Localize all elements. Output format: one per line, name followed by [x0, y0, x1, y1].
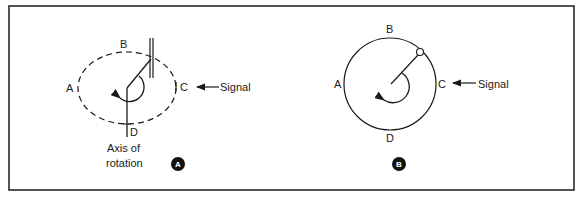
- rotation-arrow-icon: [120, 76, 144, 102]
- panel-b: B A C D Signal B: [334, 23, 509, 171]
- figure-canvas: B A C D Signal Axis of rotation A B A C …: [0, 0, 582, 198]
- panel-a: B A C D Signal Axis of rotation A: [66, 38, 251, 171]
- label-c: C: [438, 78, 446, 90]
- rotating-arm: [127, 59, 151, 88]
- label-b: B: [386, 23, 393, 35]
- label-d: D: [386, 132, 394, 144]
- signal-label: Signal: [478, 78, 509, 90]
- label-a: A: [334, 78, 342, 90]
- label-a: A: [66, 82, 74, 94]
- axis-label-line1: Axis of: [107, 142, 141, 154]
- antenna-icon: [417, 49, 424, 56]
- label-c: C: [180, 81, 188, 93]
- signal-label: Signal: [220, 81, 251, 93]
- figure-frame: [9, 6, 574, 190]
- svg-text:A: A: [175, 160, 181, 169]
- svg-text:B: B: [396, 160, 402, 169]
- label-d: D: [130, 126, 138, 138]
- label-b: B: [120, 38, 127, 50]
- axis-label-line2: rotation: [106, 157, 143, 169]
- rotating-arm: [391, 55, 418, 84]
